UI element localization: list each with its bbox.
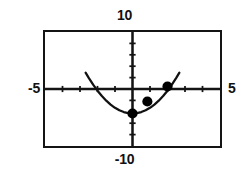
y-max-label: 10 — [0, 8, 249, 22]
graph-viewport — [43, 30, 222, 148]
marked-point — [162, 81, 172, 91]
graph-plot-area — [45, 32, 220, 146]
x-min-label: -5 — [12, 81, 40, 95]
x-max-label: 5 — [228, 81, 248, 95]
y-min-label: -10 — [0, 152, 249, 166]
marked-point — [142, 97, 152, 107]
marked-point — [127, 108, 137, 118]
calculator-screenshot: 10 -5 5 -10 — [0, 0, 249, 175]
